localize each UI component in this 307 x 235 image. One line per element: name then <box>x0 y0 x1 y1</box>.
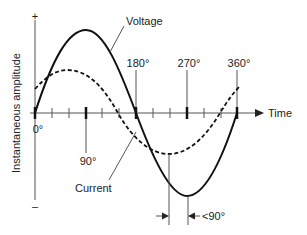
tick-label-90: 90° <box>80 155 97 167</box>
y-axis-negative-sign: – <box>32 200 39 212</box>
phase-diagram: + – Instantaneous amplitude Time 0° 90° … <box>0 0 307 235</box>
tick-label-180: 180° <box>127 57 150 69</box>
tick-label-360: 360° <box>228 57 251 69</box>
voltage-leader <box>110 26 124 52</box>
voltage-label: Voltage <box>126 15 163 27</box>
tick-leaders <box>86 70 237 153</box>
current-leader <box>109 132 136 180</box>
current-curve <box>35 70 240 154</box>
current-label: Current <box>75 182 112 194</box>
phase-difference-label: <90° <box>202 210 225 222</box>
x-axis-arrow-icon <box>255 109 264 117</box>
left-arrow-icon <box>188 213 195 220</box>
right-arrow-icon <box>162 213 169 220</box>
tick-label-0: 0° <box>33 123 44 135</box>
y-axis-positive-sign: + <box>32 10 38 22</box>
y-axis-label: Instantaneous amplitude <box>10 53 22 173</box>
x-axis-label: Time <box>268 107 292 119</box>
tick-label-270: 270° <box>178 57 201 69</box>
